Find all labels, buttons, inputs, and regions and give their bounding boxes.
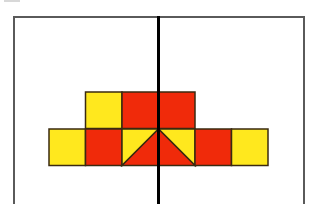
square-red — [86, 129, 123, 166]
tile-1-3 — [159, 129, 196, 166]
square-yellow — [232, 129, 269, 166]
square-red — [159, 92, 196, 129]
square-yellow — [86, 92, 123, 129]
tile-1-0 — [49, 129, 86, 166]
square-red — [122, 92, 159, 129]
tile-1-2 — [122, 129, 159, 166]
tile-0-3 — [159, 92, 196, 129]
square-yellow — [49, 129, 86, 166]
mirror-line — [157, 16, 160, 204]
tile-1-1 — [86, 129, 123, 166]
tile-1-4 — [195, 129, 232, 166]
square-red — [195, 129, 232, 166]
tile-1-5 — [232, 129, 269, 166]
symmetry-tile-figure — [0, 0, 312, 204]
tile-0-1 — [86, 92, 123, 129]
tile-0-2 — [122, 92, 159, 129]
